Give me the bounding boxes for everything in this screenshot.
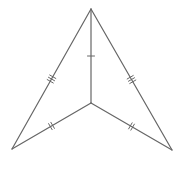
geometry-diagram	[0, 0, 185, 177]
segment-center-bottom-right	[91, 103, 172, 150]
segment-center-bottom-left	[12, 103, 91, 149]
diagram-svg	[0, 0, 185, 177]
